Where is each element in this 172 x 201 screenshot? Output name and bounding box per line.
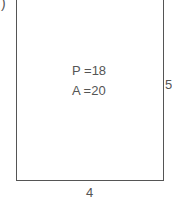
perimeter-label: P =18 [72, 64, 106, 78]
side-length-bottom: 4 [86, 186, 93, 200]
side-length-right: 5 [165, 78, 172, 92]
area-label: A =20 [72, 84, 106, 98]
figure-label-fragment: ) [1, 0, 6, 11]
